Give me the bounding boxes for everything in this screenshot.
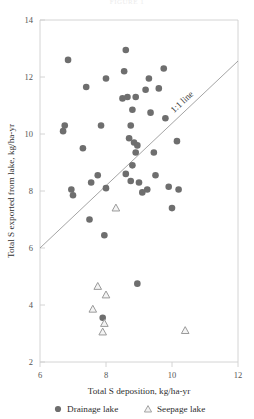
data-point-drainage: [169, 205, 176, 212]
y-tick-14: 14: [25, 15, 34, 25]
y-axis-tick-labels: 14 12 10 8 6 4 2: [25, 15, 34, 367]
scatter-chart-figure: 14 12 10 8 6 4 2 6 8 10 12 1:1 line Tota…: [0, 0, 254, 419]
data-point-drainage: [123, 47, 130, 54]
data-point-drainage: [162, 115, 169, 122]
data-point-seepage: [89, 305, 97, 312]
data-point-drainage: [152, 172, 159, 179]
data-point-drainage: [132, 149, 139, 156]
series-drainage-lake: [60, 47, 182, 321]
x-tick-10: 10: [168, 370, 177, 380]
data-point-drainage: [103, 75, 110, 82]
data-point-drainage: [83, 84, 90, 91]
data-point-drainage: [121, 68, 128, 75]
data-point-drainage: [101, 232, 108, 239]
data-point-drainage: [174, 138, 181, 145]
data-point-drainage: [156, 85, 163, 92]
data-point-drainage: [123, 171, 130, 178]
x-tick-12: 12: [234, 370, 243, 380]
data-point-drainage: [175, 186, 182, 193]
x-axis-ticks: [40, 362, 238, 367]
data-point-drainage: [124, 94, 131, 101]
one-to-one-line-label: 1:1 line: [169, 89, 196, 115]
y-axis-title: Total S exported from lake, kg/ha-yr: [6, 124, 16, 258]
data-point-drainage: [160, 65, 167, 72]
data-point-seepage: [99, 328, 107, 335]
legend-label-drainage-lake: Drainage lake: [67, 404, 118, 414]
data-point-seepage: [181, 327, 189, 334]
x-tick-8: 8: [104, 370, 108, 380]
data-point-drainage: [98, 122, 105, 129]
x-axis-tick-labels: 6 8 10 12: [38, 370, 242, 380]
x-tick-6: 6: [38, 370, 42, 380]
chart-legend: Drainage lake Seepage lake: [55, 404, 205, 414]
data-point-seepage: [112, 204, 120, 211]
data-point-drainage: [70, 192, 77, 199]
y-tick-10: 10: [25, 129, 34, 139]
filled-circle-icon: [55, 406, 61, 412]
data-point-drainage: [60, 128, 67, 135]
data-point-drainage: [151, 149, 158, 156]
data-point-drainage: [88, 179, 95, 186]
data-point-drainage: [132, 94, 139, 101]
data-point-drainage: [65, 57, 72, 64]
data-point-drainage: [127, 122, 134, 129]
legend-item-seepage-lake[interactable]: Seepage lake: [144, 404, 205, 414]
data-point-drainage: [134, 280, 141, 287]
data-point-drainage: [144, 186, 151, 193]
y-tick-6: 6: [29, 243, 33, 253]
one-to-one-reference-line: [40, 61, 238, 248]
y-tick-12: 12: [25, 72, 34, 82]
legend-label-seepage-lake: Seepage lake: [157, 404, 205, 414]
data-point-drainage: [68, 186, 75, 193]
data-point-drainage: [129, 106, 136, 113]
y-tick-4: 4: [29, 300, 34, 310]
x-axis-title: Total S deposition, kg/ha-yr: [88, 386, 190, 396]
y-tick-2: 2: [29, 357, 33, 367]
data-point-drainage: [136, 179, 143, 186]
data-point-drainage: [147, 109, 154, 116]
data-point-drainage: [94, 172, 101, 179]
data-point-drainage: [142, 87, 149, 94]
open-triangle-icon: [144, 406, 151, 412]
data-point-drainage: [127, 178, 134, 185]
legend-item-drainage-lake[interactable]: Drainage lake: [55, 404, 118, 414]
data-point-drainage: [86, 216, 93, 223]
data-point-drainage: [129, 162, 136, 169]
data-point-layer: [60, 47, 189, 335]
data-point-seepage: [94, 282, 102, 289]
data-point-seepage: [102, 291, 110, 298]
data-point-drainage: [103, 185, 110, 192]
y-tick-8: 8: [29, 186, 33, 196]
data-point-drainage: [80, 145, 87, 152]
chart-svg: 14 12 10 8 6 4 2 6 8 10 12 1:1 line Tota…: [0, 0, 254, 419]
data-point-drainage: [165, 183, 172, 190]
data-point-drainage: [61, 122, 68, 129]
data-point-drainage: [134, 142, 141, 149]
data-point-drainage: [146, 75, 153, 82]
y-axis-ticks: [40, 20, 45, 362]
